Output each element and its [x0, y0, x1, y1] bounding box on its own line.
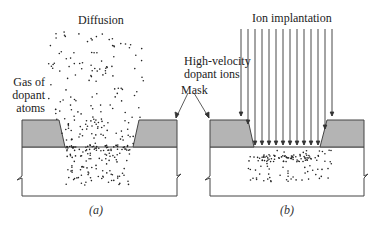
side-label-line: dopant ions — [184, 68, 236, 81]
panel-a-caption: (a) — [89, 203, 103, 218]
panel-b-substrate — [205, 147, 368, 196]
panel-a-title: Diffusion — [78, 14, 124, 27]
panel-b-side-label: High-velocity dopant ions — [184, 55, 236, 81]
panel-b-title: Ion implantation — [252, 12, 332, 25]
panel-a-substrate — [17, 147, 181, 196]
mask-label: Mask — [181, 84, 208, 97]
diagram-canvas — [0, 0, 376, 225]
panel-a-side-label: Gas of dopant atoms — [8, 76, 45, 115]
side-label-line: atoms — [8, 102, 45, 115]
panel-b-ion-arrows — [239, 29, 334, 145]
panel-b-caption: (b) — [280, 203, 294, 218]
panel-b-mask — [210, 120, 364, 147]
panel-a-mask — [22, 120, 177, 147]
